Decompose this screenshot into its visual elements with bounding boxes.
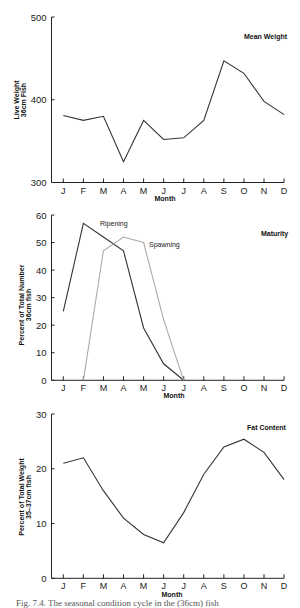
x-tick-label: J — [161, 186, 166, 196]
y-tick-label: 30 — [36, 292, 47, 303]
chart-fat-content: Fat Content Month Percent of Total Weigh… — [18, 409, 288, 599]
x-tick-label: A — [121, 383, 127, 393]
x-tick-label: J — [161, 383, 166, 393]
x-tick-label: J — [161, 581, 166, 591]
y-tick-label: 30 — [36, 409, 47, 420]
y-axis-title-line2: 36cm fish — [25, 289, 32, 321]
x-tick-label: S — [221, 581, 227, 591]
series-label-ripening: Ripening — [100, 220, 128, 228]
x-tick-label: N — [261, 581, 268, 591]
x-tick-label: S — [221, 186, 227, 196]
x-tick-label: J — [181, 383, 186, 393]
y-tick-label: 0 — [41, 375, 46, 386]
x-tick-label: J — [61, 383, 66, 393]
x-tick-label: A — [201, 581, 207, 591]
x-tick-label: A — [201, 186, 207, 196]
x-tick-label: N — [261, 383, 268, 393]
x-tick-label: O — [240, 383, 247, 393]
y-tick-label: 50 — [36, 237, 47, 248]
x-tick-label: M — [140, 581, 148, 591]
chart-title: Maturity — [261, 230, 288, 238]
y-axis-title-line2: 35–37cm fish — [25, 475, 32, 519]
x-tick-label: J — [61, 581, 66, 591]
x-tick-label: J — [181, 186, 186, 196]
y-tick-label: 40 — [36, 265, 47, 276]
figure-canvas: Mean Weight Month Live Weight 36cm Fish … — [0, 0, 300, 608]
y-tick-label: 0 — [41, 573, 46, 584]
series-label-spawning: Spawning — [149, 241, 180, 249]
y-tick-label: 10 — [36, 518, 47, 529]
x-tick-label: S — [221, 383, 227, 393]
x-tick-label: M — [100, 186, 108, 196]
y-axis-title-line1: Percent of Total Number — [18, 264, 25, 345]
x-tick-label: A — [121, 186, 127, 196]
x-tick-label: J — [181, 581, 186, 591]
plot-area: 0102030405060JFMAMJJASOND — [36, 210, 288, 394]
chart-title: Mean Weight — [244, 33, 288, 41]
x-tick-label: F — [81, 581, 87, 591]
x-tick-label: M — [140, 383, 148, 393]
x-tick-label: D — [281, 186, 288, 196]
series-line-spawning — [83, 237, 183, 380]
y-tick-label: 20 — [36, 463, 47, 474]
x-tick-label: F — [81, 383, 87, 393]
x-axis-title: Month — [155, 195, 176, 202]
x-tick-label: D — [281, 383, 288, 393]
x-tick-label: M — [100, 581, 108, 591]
y-tick-label: 20 — [36, 320, 47, 331]
y-tick-label: 500 — [31, 12, 47, 23]
y-tick-label: 60 — [36, 210, 47, 221]
y-tick-label: 400 — [31, 94, 47, 105]
x-tick-label: O — [240, 186, 247, 196]
x-tick-label: M — [100, 383, 108, 393]
series-line-fat-content — [63, 439, 284, 543]
chart-title: Fat Content — [247, 424, 287, 431]
x-tick-label: M — [140, 186, 148, 196]
x-axis-title: Month — [162, 591, 183, 598]
x-tick-label: N — [261, 186, 268, 196]
x-tick-label: D — [281, 581, 288, 591]
y-tick-label: 300 — [31, 177, 47, 188]
y-tick-label: 10 — [36, 347, 47, 358]
series-line-mean-weight — [63, 61, 284, 162]
x-tick-label: A — [201, 383, 207, 393]
chart-maturity: Maturity Month Percent of Total Number 3… — [18, 210, 288, 400]
chart-mean-weight: Mean Weight Month Live Weight 36cm Fish … — [13, 12, 288, 203]
plot-area: 0102030JFMAMJJASOND — [36, 409, 288, 592]
x-tick-label: F — [81, 186, 87, 196]
x-tick-label: O — [240, 581, 247, 591]
x-tick-label: J — [61, 186, 66, 196]
x-tick-label: A — [121, 581, 127, 591]
y-axis-title-line2: 36cm Fish — [20, 83, 27, 117]
figure-caption: Fig. 7.4. The seasonal condition cycle i… — [16, 598, 300, 608]
